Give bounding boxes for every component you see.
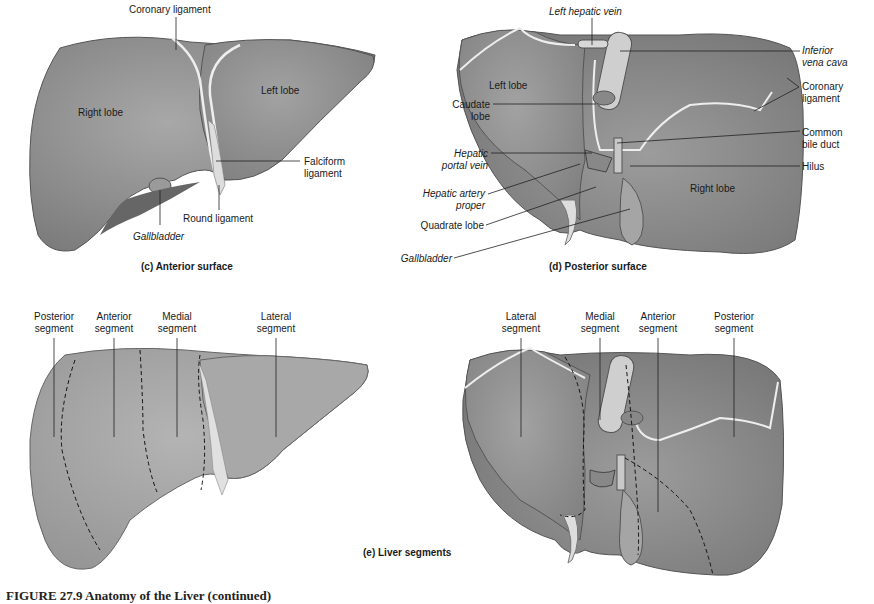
label-seg-lateral-p: Lateral segment bbox=[496, 311, 546, 335]
label-seg-anterior-p: Anterior segment bbox=[633, 311, 683, 335]
label-seg-anterior-p-line2: segment bbox=[633, 323, 683, 335]
label-coronary-line2: ligament bbox=[802, 93, 843, 105]
label-seg-posterior-p-line2: segment bbox=[709, 323, 759, 335]
label-falciform-ligament: Falciform ligament bbox=[304, 156, 345, 180]
label-seg-posterior-p-line1: Posterior bbox=[709, 311, 759, 323]
label-seg-lateral-a-line2: segment bbox=[251, 323, 301, 335]
label-seg-medial-a: Medial segment bbox=[152, 311, 202, 335]
label-left-lobe-posterior: Left lobe bbox=[489, 80, 527, 92]
label-right-lobe: Right lobe bbox=[78, 107, 123, 119]
label-hpv-line1: Hepatic bbox=[420, 148, 488, 160]
label-left-lobe: Left lobe bbox=[261, 85, 299, 97]
posterior-liver bbox=[457, 28, 803, 254]
caption-anterior-surface: (c) Anterior surface bbox=[141, 261, 233, 272]
label-seg-posterior-a: Posterior segment bbox=[29, 311, 79, 335]
label-falciform-line1: Falciform bbox=[304, 156, 345, 168]
label-cbd-line1: Common bbox=[802, 127, 843, 139]
figure-caption: FIGURE 27.9 Anatomy of the Liver (contin… bbox=[6, 588, 271, 604]
label-seg-medial-a-line2: segment bbox=[152, 323, 202, 335]
label-left-hepatic-vein: Left hepatic vein bbox=[549, 6, 622, 18]
label-seg-anterior-a-line1: Anterior bbox=[89, 311, 139, 323]
label-seg-posterior-p: Posterior segment bbox=[709, 311, 759, 335]
label-ivc-line2: vena cava bbox=[802, 57, 848, 69]
label-hap-line2: proper bbox=[400, 200, 485, 212]
label-caudate-line2: lobe bbox=[440, 111, 490, 123]
label-seg-anterior-p-line1: Anterior bbox=[633, 311, 683, 323]
label-seg-medial-p-line2: segment bbox=[575, 323, 625, 335]
label-seg-lateral-p-line2: segment bbox=[496, 323, 546, 335]
label-caudate-lobe: Caudate lobe bbox=[440, 99, 490, 123]
label-ivc-line1: Inferior bbox=[802, 45, 848, 57]
label-round-ligament: Round ligament bbox=[183, 213, 253, 225]
label-cbd-line2: bile duct bbox=[802, 139, 843, 151]
label-hepatic-portal-vein: Hepatic portal vein bbox=[420, 148, 488, 172]
label-seg-medial-p: Medial segment bbox=[575, 311, 625, 335]
label-seg-medial-p-line1: Medial bbox=[575, 311, 625, 323]
label-seg-lateral-p-line1: Lateral bbox=[496, 311, 546, 323]
label-right-lobe-posterior: Right lobe bbox=[690, 183, 735, 195]
label-seg-anterior-a-line2: segment bbox=[89, 323, 139, 335]
label-hpv-line2: portal vein bbox=[420, 160, 488, 172]
label-hepatic-artery-proper: Hepatic artery proper bbox=[400, 188, 485, 212]
segments-anterior-liver bbox=[30, 348, 368, 569]
segments-posterior-liver bbox=[463, 348, 784, 575]
label-seg-medial-a-line1: Medial bbox=[152, 311, 202, 323]
label-common-bile-duct: Common bile duct bbox=[802, 127, 843, 151]
label-hap-line1: Hepatic artery bbox=[400, 188, 485, 200]
label-seg-anterior-a: Anterior segment bbox=[89, 311, 139, 335]
caption-posterior-surface: (d) Posterior surface bbox=[549, 261, 647, 272]
label-gallbladder-posterior: Gallbladder bbox=[380, 253, 452, 265]
label-caudate-line1: Caudate bbox=[440, 99, 490, 111]
label-hilus: Hilus bbox=[802, 161, 824, 173]
caption-liver-segments: (e) Liver segments bbox=[363, 547, 451, 558]
label-seg-lateral-a: Lateral segment bbox=[251, 311, 301, 335]
label-seg-posterior-a-line2: segment bbox=[29, 323, 79, 335]
label-gallbladder: Gallbladder bbox=[133, 231, 184, 243]
label-seg-lateral-a-line1: Lateral bbox=[251, 311, 301, 323]
label-inferior-vena-cava: Inferior vena cava bbox=[802, 45, 848, 69]
label-quadrate-lobe: Quadrate lobe bbox=[400, 220, 484, 232]
label-falciform-line2: ligament bbox=[304, 168, 345, 180]
label-coronary-ligament-posterior: Coronary ligament bbox=[802, 81, 843, 105]
label-coronary-line1: Coronary bbox=[802, 81, 843, 93]
label-seg-posterior-a-line1: Posterior bbox=[29, 311, 79, 323]
label-coronary-ligament: Coronary ligament bbox=[129, 4, 211, 16]
